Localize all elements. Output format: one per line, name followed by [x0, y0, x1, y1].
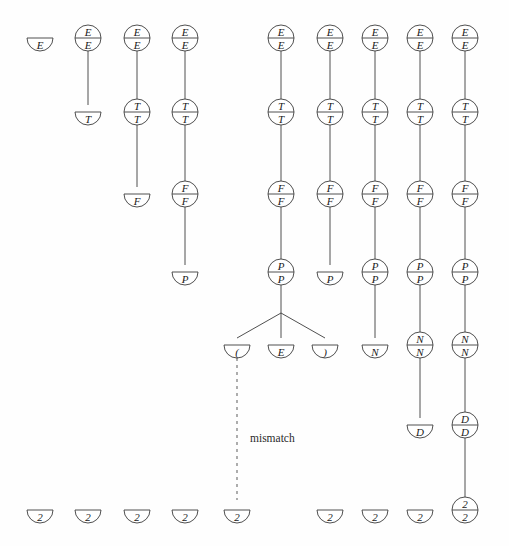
node-bottom-label: P [416, 273, 424, 285]
node-bottom-label: T [85, 113, 92, 125]
node-bottom-label: P [181, 273, 189, 285]
node-2-full-col9[interactable]: 22 [452, 497, 478, 523]
node-N-full-col9[interactable]: NN [452, 332, 478, 358]
annotations-layer: mismatch [250, 432, 295, 444]
node-bottom-label: F [371, 195, 379, 207]
mismatch-label: mismatch [250, 432, 295, 444]
node-T-full-col6[interactable]: TT [317, 99, 343, 125]
node-top-label: T [462, 100, 469, 112]
node-T-full-col3[interactable]: TT [172, 99, 198, 125]
node-D-full-col9[interactable]: DD [452, 412, 478, 438]
node-D-half-col8[interactable]: D [407, 425, 433, 438]
node-T-full-col2[interactable]: TT [124, 99, 150, 125]
node-top-label: T [372, 100, 379, 112]
node-P-full-col7[interactable]: PP [362, 259, 388, 285]
node-bottom-label: 2 [85, 511, 91, 523]
node-2-half-col3[interactable]: 2 [172, 510, 198, 523]
node-P-half-col3[interactable]: P [172, 272, 198, 285]
node-top-label: E [133, 26, 141, 38]
node-E-full-col8[interactable]: EE [407, 25, 433, 51]
node-top-label: F [416, 182, 424, 194]
nodes-layer: EEETEETTFEETTFFPEETTFFPP(E)EETTFFPEETTFF… [27, 25, 478, 523]
node-N-half-col7[interactable]: N [362, 345, 388, 358]
node-2-half-col0[interactable]: 2 [27, 510, 53, 523]
node-T-full-col9[interactable]: TT [452, 99, 478, 125]
node-E-full-col1[interactable]: EE [75, 25, 101, 51]
node-bottom-label: F [416, 195, 424, 207]
node-top-label: E [277, 26, 285, 38]
node-E-full-col5[interactable]: EE [268, 25, 294, 51]
node-N-full-col8[interactable]: NN [407, 332, 433, 358]
node-bottom-label: 2 [462, 511, 468, 523]
node-E-full-col3[interactable]: EE [172, 25, 198, 51]
node-rparen-half[interactable]: ) [312, 345, 338, 359]
node-F-full-col7[interactable]: FF [362, 181, 388, 207]
node-bottom-label: 2 [37, 511, 43, 523]
node-2-half-col2[interactable]: 2 [124, 510, 150, 523]
node-bottom-label: F [133, 195, 141, 207]
node-bottom-label: 2 [372, 511, 378, 523]
node-top-label: E [371, 26, 379, 38]
node-bottom-label: N [370, 346, 379, 358]
node-E-full-col6[interactable]: EE [317, 25, 343, 51]
node-top-label: T [134, 100, 141, 112]
node-bottom-label: T [462, 113, 469, 125]
node-bottom-label: 2 [182, 511, 188, 523]
node-bottom-label: P [371, 273, 379, 285]
node-top-label: F [181, 182, 189, 194]
node-bottom-label: D [415, 426, 424, 438]
node-E-full-col9[interactable]: EE [452, 25, 478, 51]
node-bottom-label: E [416, 39, 424, 51]
edge-col5-fan-right [281, 313, 325, 338]
node-bottom-label: F [277, 195, 285, 207]
node-lparen-half[interactable]: ( [224, 345, 250, 359]
node-F-half-col2[interactable]: F [124, 194, 150, 207]
edge-col5-fan-left [237, 313, 281, 338]
node-F-full-col8[interactable]: FF [407, 181, 433, 207]
node-bottom-label: ) [322, 346, 327, 359]
node-bottom-label: E [36, 39, 44, 51]
node-T-half-col1[interactable]: T [75, 112, 101, 125]
node-bottom-label: P [326, 273, 334, 285]
node-E-half-col0[interactable]: E [27, 38, 53, 51]
node-P-full-col5[interactable]: PP [268, 259, 294, 285]
node-F-full-col5[interactable]: FF [268, 181, 294, 207]
node-P-full-col9[interactable]: PP [452, 259, 478, 285]
node-2-half-col4[interactable]: 2 [224, 510, 250, 523]
node-top-label: F [461, 182, 469, 194]
node-T-full-col5[interactable]: TT [268, 99, 294, 125]
node-F-full-col6[interactable]: FF [317, 181, 343, 207]
node-top-label: F [326, 182, 334, 194]
node-top-label: 2 [462, 498, 468, 510]
node-E-half-mid[interactable]: E [268, 345, 294, 358]
node-bottom-label: N [415, 346, 424, 358]
node-top-label: F [371, 182, 379, 194]
node-top-label: E [84, 26, 92, 38]
node-bottom-label: T [327, 113, 334, 125]
node-2-half-col7[interactable]: 2 [362, 510, 388, 523]
node-T-full-col7[interactable]: TT [362, 99, 388, 125]
node-top-label: T [327, 100, 334, 112]
diagram-canvas: EEETEETTFEETTFFPEETTFFPP(E)EETTFFPEETTFF… [0, 0, 509, 546]
parse-trace-svg: EEETEETTFEETTFFPEETTFFPP(E)EETTFFPEETTFF… [0, 0, 509, 546]
node-bottom-label: N [460, 346, 469, 358]
node-2-half-col6[interactable]: 2 [317, 510, 343, 523]
node-bottom-label: E [461, 39, 469, 51]
node-F-full-col9[interactable]: FF [452, 181, 478, 207]
node-bottom-label: E [326, 39, 334, 51]
node-bottom-label: E [277, 346, 285, 358]
node-bottom-label: T [278, 113, 285, 125]
node-top-label: E [181, 26, 189, 38]
node-F-full-col3[interactable]: FF [172, 181, 198, 207]
node-P-half-col6[interactable]: P [317, 272, 343, 285]
node-bottom-label: F [326, 195, 334, 207]
node-top-label: P [277, 260, 285, 272]
node-T-full-col8[interactable]: TT [407, 99, 433, 125]
node-top-label: E [461, 26, 469, 38]
node-P-full-col8[interactable]: PP [407, 259, 433, 285]
node-E-full-col7[interactable]: EE [362, 25, 388, 51]
node-E-full-col2[interactable]: EE [124, 25, 150, 51]
node-top-label: T [417, 100, 424, 112]
node-2-half-col8[interactable]: 2 [407, 510, 433, 523]
node-2-half-col1[interactable]: 2 [75, 510, 101, 523]
